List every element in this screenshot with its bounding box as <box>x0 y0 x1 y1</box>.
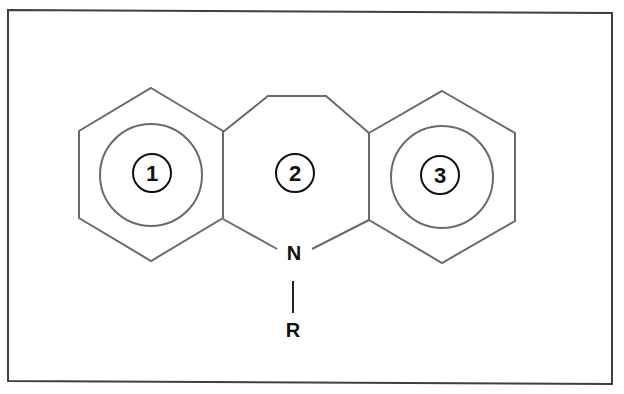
ring-3-benzene: 3 <box>369 91 515 263</box>
nitrogen-substituent: N R <box>286 242 301 341</box>
chemical-structure-diagram: 1 2 3 N R <box>0 0 624 394</box>
ring-3-label: 3 <box>434 163 446 188</box>
diagram-frame <box>8 10 612 384</box>
ring-2-bond-left-to-n <box>223 219 277 249</box>
ring-2-bond-n-to-right <box>312 220 369 249</box>
ring-2-azepine: 2 <box>223 96 369 249</box>
nitrogen-atom-label: N <box>287 242 301 264</box>
r-group-label: R <box>286 319 301 341</box>
ring-2-label: 2 <box>289 161 301 186</box>
ring-1-label: 1 <box>146 161 158 186</box>
ring-2-upper-bonds <box>223 96 369 133</box>
ring-1-benzene: 1 <box>79 88 223 261</box>
